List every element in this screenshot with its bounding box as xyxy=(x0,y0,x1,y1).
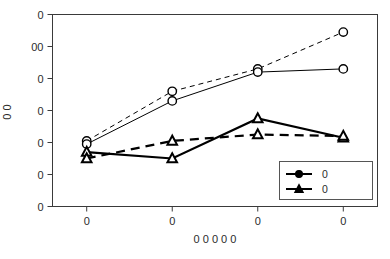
x-axis-tick-label: 0 xyxy=(84,215,90,227)
data-point-triangle xyxy=(253,113,263,122)
series-markers xyxy=(82,28,348,162)
legend-label: 0 xyxy=(322,183,328,195)
y-axis-title: 0 0 xyxy=(1,104,13,119)
data-point-circle xyxy=(339,65,347,73)
chart-figure: 00000000 0000 0 0 0 0 0 0 0 00 xyxy=(0,0,390,259)
x-axis-ticks xyxy=(87,207,344,212)
legend-marker-circle xyxy=(296,171,303,178)
x-axis-tick-labels: 0000 xyxy=(84,215,347,227)
data-point-triangle xyxy=(167,136,177,145)
y-axis-tick-label: 0 xyxy=(37,201,43,213)
y-axis-tick-label: 0 xyxy=(37,73,43,85)
y-axis-ticks xyxy=(48,15,53,207)
y-axis-tick-label: 0 xyxy=(37,137,43,149)
y-axis-tick-label: 0 xyxy=(37,105,43,117)
x-axis-title: 0 0 0 0 0 xyxy=(194,233,237,245)
data-point-circle xyxy=(168,87,176,95)
x-axis-tick-label: 0 xyxy=(340,215,346,227)
y-axis-tick-label: 0 xyxy=(37,169,43,181)
legend-label: 0 xyxy=(322,168,328,180)
series-lines xyxy=(87,32,344,158)
y-axis-tick-label: 00 xyxy=(31,41,43,53)
data-point-circle xyxy=(339,28,347,36)
data-point-circle xyxy=(168,97,176,105)
x-axis-tick-label: 0 xyxy=(255,215,261,227)
data-point-triangle xyxy=(167,153,177,162)
x-axis-tick-label: 0 xyxy=(169,215,175,227)
chart-legend: 00 xyxy=(280,162,373,200)
data-point-triangle xyxy=(339,131,349,140)
y-axis-tick-label: 0 xyxy=(37,9,43,21)
y-axis-tick-labels: 00000000 xyxy=(31,9,43,213)
series-line-1 xyxy=(87,69,344,144)
data-point-triangle xyxy=(253,129,263,138)
data-point-circle xyxy=(254,68,262,76)
chart-canvas: 00000000 0000 0 0 0 0 0 0 0 00 xyxy=(0,0,390,259)
